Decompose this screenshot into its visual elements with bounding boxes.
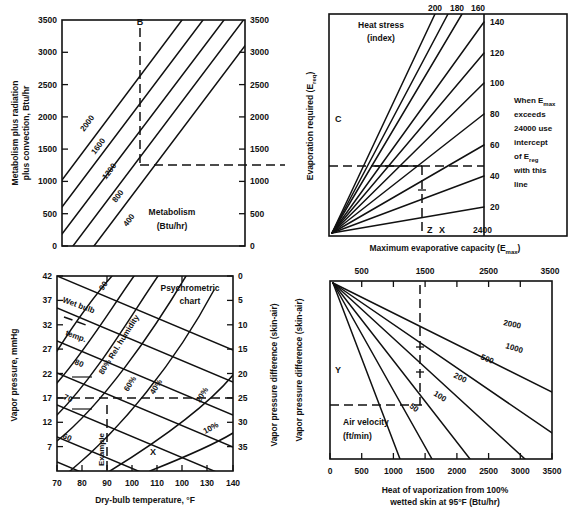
ytick-right-2000: 2000 [250,112,269,122]
ytick-right-35: 35 [238,442,248,452]
svg-text:with this: with this [513,166,547,175]
metabolism-y-axis-right: 0 500 1000 1500 2000 2500 3000 3500 [239,15,269,251]
xtick-110: 110 [150,478,164,488]
psychrometric-panel: Vapor pressure, mmHg Vapor pressure diff… [0,255,285,510]
curve-1600 [62,20,203,207]
rh-label-60: 60% [122,375,138,393]
velocity-label-200: 200 [452,371,468,385]
top-xtick-1500: 1500 [416,266,435,276]
ytick-27: 27 [43,344,53,354]
marker-b: B [137,17,144,27]
velocity-line-2000 [333,283,552,392]
index-label-20: 20 [490,202,500,212]
wetbulb-line-90 [57,308,233,382]
metabolism-ylabel-line1: Metabolism plus radiation [10,81,20,186]
xtick-0: 0 [328,466,333,476]
ytick-right-500: 500 [250,209,264,219]
metabolism-inner-label-2: (Btu/hr) [157,221,188,231]
fan-line-120 [332,53,484,233]
rh-curve-5 [150,433,233,471]
wetbulb-line-80 [57,341,233,415]
psychrometric-top-ticks [107,276,182,282]
wetbulb-legend-line2: temp. [64,328,87,344]
marker-x: X [439,225,445,235]
wetbulb-label-80: 80 [73,358,85,370]
ytick-right-1500: 1500 [250,144,269,154]
ytick-right-1000: 1000 [250,176,269,186]
heat-stress-inner-label-2: (index) [367,33,395,43]
ytick-22: 22 [43,369,53,379]
ytick-right-10: 10 [238,320,248,330]
xtick-2500: 2500 [479,466,498,476]
ytick-42: 42 [43,271,53,281]
vaporization-bottom-axis: 0 500 1000 1500 2000 2500 3000 3500 [328,453,562,476]
air-velocity-label-1: Air velocity [343,417,389,427]
top-xtick-500: 500 [355,266,369,276]
ytick-right-3500: 3500 [250,15,269,25]
ytick-right-0: 0 [250,241,255,251]
ytick-7: 7 [47,442,52,452]
xtick-3500: 3500 [543,466,562,476]
ytick-0: 0 [52,241,57,251]
ytick-17: 17 [43,393,53,403]
ytick-right-2500: 2500 [250,80,269,90]
psychrometric-title-line2: chart [180,296,201,306]
xtick-3000: 3000 [511,466,530,476]
curve-label-400: 400 [121,212,137,229]
ytick-37: 37 [43,295,53,305]
vaporization-top-axis: 500 1500 2500 3500 [355,266,560,287]
index-label-60: 60 [490,140,500,150]
xtick-130: 130 [200,478,214,488]
ytick-1500: 1500 [38,144,57,154]
fan-line-80 [332,114,484,233]
heat-stress-chart: Evaporation required (Ereq) 200 [285,0,570,255]
ytick-right-3000: 3000 [250,47,269,57]
velocity-label-500: 500 [479,353,495,367]
svg-text:intercept: intercept [514,138,548,147]
vaporization-xlabel-line2: wetted skin at 95°F (Btu/hr) [389,497,500,507]
top-label-160: 160 [471,3,485,13]
vaporization-ylabel: Vapor pressure difference (skin-air) [294,298,304,441]
ytick-right-30: 30 [238,417,248,427]
vaporization-panel: Vapor pressure difference (skin-air) 500… [285,255,570,510]
ytick-right-20: 20 [238,369,248,379]
curve-label-1200: 1200 [100,161,118,181]
ytick-right-5: 5 [238,295,243,305]
xtick-80: 80 [77,478,87,488]
xtick-90: 90 [102,478,112,488]
xtick-70: 70 [52,478,62,488]
svg-text:24000 use: 24000 use [514,124,553,133]
ytick-12: 12 [43,417,53,427]
xtick-1500: 1500 [416,466,435,476]
heat-stress-top-labels: 200 180 160 [428,3,485,13]
svg-text:exceeds: exceeds [514,110,546,119]
index-label-100: 100 [490,78,504,88]
curve-label-2000: 2000 [78,113,96,133]
ytick-right-0: 0 [238,271,243,281]
marker-z: Z [427,225,433,235]
curve-label-800: 800 [110,188,126,205]
metabolism-chart: Metabolism plus radiation plus convectio… [0,0,285,255]
psychrometric-chart: Vapor pressure, mmHg Vapor pressure diff… [0,255,285,510]
corner-label-2400: 2400 [473,225,492,235]
wetbulb-label-60: 60 [61,432,73,444]
velocity-label-1000: 1000 [504,341,524,355]
heat-stress-fan-group [332,14,484,233]
ytick-right-15: 15 [238,344,248,354]
psychrometric-y-axis-right: 0 5 10 15 20 25 30 35 [227,271,248,452]
ytick-right-25: 25 [238,393,248,403]
top-xtick-2500: 2500 [479,266,498,276]
top-label-200: 200 [428,3,442,13]
top-xtick-3500: 3500 [541,266,560,276]
rh-curve-20 [70,290,214,471]
xtick-2000: 2000 [447,466,466,476]
marker-c: C [335,114,342,124]
xtick-500: 500 [355,466,369,476]
marker-example: Example [97,433,106,466]
velocity-label-100: 100 [432,389,449,404]
ytick-3000: 3000 [38,47,57,57]
psychrometric-xlabel: Dry-bulb temperature, °F [95,495,195,505]
xtick-100: 100 [125,478,139,488]
heat-stress-panel: Evaporation required (Ereq) 200 [285,0,570,255]
index-label-40: 40 [490,171,500,181]
